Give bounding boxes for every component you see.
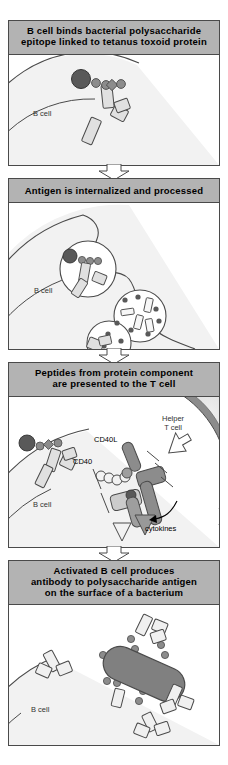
- panel-3-scene: [9, 397, 219, 547]
- panel-4-header: Activated B cell produces antibody to po…: [9, 561, 219, 605]
- panel-3-b-cell-label: B cell: [33, 500, 51, 509]
- panel-2-scene: [9, 203, 219, 349]
- panel-3-header-line-2: are presented to the T cell: [12, 378, 216, 389]
- helper-t-cell-label: Helper T cell: [162, 414, 184, 432]
- panel-4-scene: [9, 605, 219, 745]
- panel-3: Peptides from protein component are pres…: [8, 362, 220, 548]
- panel-3-header: Peptides from protein component are pres…: [9, 363, 219, 397]
- panel-4-body: B cell: [9, 605, 219, 745]
- panel-4-header-line-1: Activated B cell produces: [12, 565, 216, 576]
- panel-1-header: B cell binds bacterial polysaccharide ep…: [9, 21, 219, 55]
- panel-3-body: Helper T cell CD40L CD40 cytokines B cel…: [9, 397, 219, 547]
- panel-4-header-line-3: on the surface of a bacterium: [12, 587, 216, 598]
- cd40-label: CD40: [73, 457, 92, 466]
- panel-2: Antigen is internalized and processed: [8, 178, 220, 350]
- helper-t-cell-label-line-2: T cell: [162, 423, 184, 432]
- panel-1-header-line-1: B cell binds bacterial polysaccharide: [12, 25, 216, 36]
- helper-t-cell-label-line-1: Helper: [162, 414, 184, 423]
- tetanus-toxoid-protein: [72, 70, 91, 89]
- panel-2-header: Antigen is internalized and processed: [9, 179, 219, 203]
- panel-1-body: B cell: [9, 55, 219, 165]
- panel-4-b-cell-label: B cell: [31, 705, 49, 714]
- panel-4-header-line-2: antibody to polysaccharide antigen: [12, 576, 216, 587]
- cytokines-label: cytokines: [145, 524, 176, 533]
- panel-4: Activated B cell produces antibody to po…: [8, 560, 220, 746]
- panel-2-b-cell-label: B cell: [34, 286, 52, 295]
- panel-1-header-line-2: epitope linked to tetanus toxoid protein: [12, 36, 216, 47]
- immunology-figure: B cell binds bacterial polysaccharide ep…: [0, 0, 228, 765]
- panel-1-b-cell-label: B cell: [33, 109, 51, 118]
- panel-2-body: B cell: [9, 203, 219, 349]
- panel-1: B cell binds bacterial polysaccharide ep…: [8, 20, 220, 166]
- helper-t-cell-pointer-arrow: [162, 428, 195, 459]
- panel-3-header-line-1: Peptides from protein component: [12, 367, 216, 378]
- panel-2-header-line-1: Antigen is internalized and processed: [25, 185, 203, 196]
- cd40l-label: CD40L: [94, 435, 117, 444]
